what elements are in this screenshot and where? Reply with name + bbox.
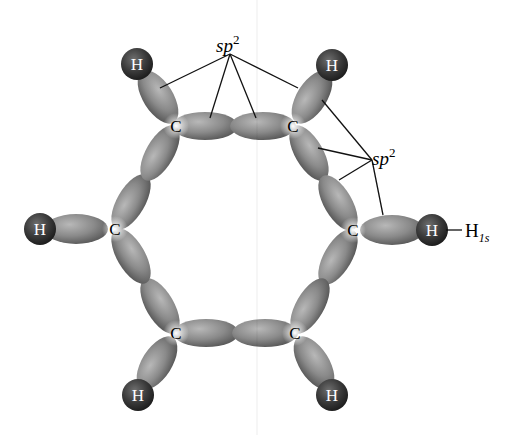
carbon-label: C [289,324,300,343]
hydrogen-label: H [132,386,144,405]
h1s-label: H1s [465,220,490,245]
benzene-orbital-diagram: C C C C C C H H H H H H sp2 sp2 H1s [0,0,515,435]
ch-sigma-bonds [44,64,424,397]
carbon-label: C [287,117,298,136]
sp2-label-top: sp2 [216,32,239,56]
sp2-lobe [360,215,424,245]
hydrogen-label: H [131,55,143,74]
sp2-label-right: sp2 [372,145,395,169]
carbon-glows [102,113,366,346]
cc-sigma-bonds [103,112,365,347]
hydrogen-label: H [326,386,338,405]
hydrogen-label: H [326,56,338,75]
carbon-label: C [109,220,120,239]
carbon-label: C [170,324,181,343]
carbon-label: C [170,117,181,136]
page-fold [256,0,258,435]
hydrogen-label: H [426,221,438,240]
hydrogen-label: H [34,220,46,239]
carbon-label: C [347,221,358,240]
